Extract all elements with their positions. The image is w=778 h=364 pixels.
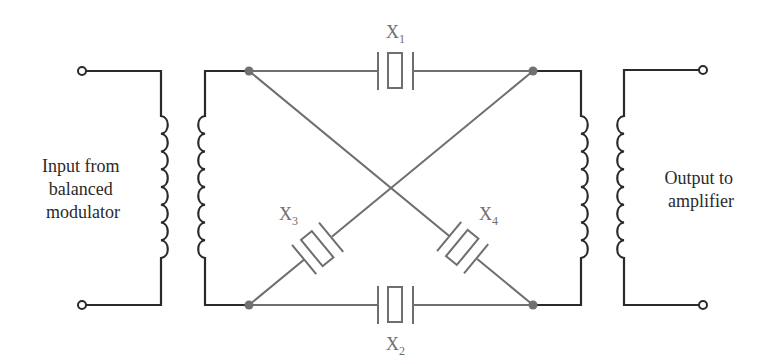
node-bottom-left: [245, 301, 254, 310]
crystal-x3: [291, 221, 344, 275]
label-x3: X3: [279, 204, 298, 228]
crystal-x4: [436, 221, 489, 275]
node-top-right: [529, 67, 538, 76]
node-bottom-right: [529, 301, 538, 310]
input-terminal-bottom: [78, 301, 86, 309]
output-transformer-primary: [533, 71, 588, 305]
input-transformer-secondary: [198, 71, 249, 305]
crystal-x1: [378, 51, 414, 91]
output-primary-coil: [581, 116, 588, 258]
input-secondary-coil: [198, 116, 205, 258]
node-top-left: [245, 67, 254, 76]
output-terminal-bottom: [699, 301, 707, 309]
output-terminal-top: [699, 66, 707, 74]
label-x2: X2: [386, 334, 405, 358]
label-x4: X4: [479, 204, 498, 228]
crystal-x2: [378, 285, 414, 325]
output-label: Output to amplifier: [664, 168, 737, 211]
lattice-filter-diagram: X1 X2 X3 X4 Input from balanced modulato…: [0, 0, 778, 364]
input-label: Input from balanced modulator: [42, 156, 124, 222]
input-primary-coil: [161, 116, 168, 258]
output-secondary-coil: [617, 116, 624, 258]
lattice-wires: [249, 71, 533, 305]
label-x1: X1: [386, 22, 405, 46]
input-terminal-top: [78, 67, 86, 75]
